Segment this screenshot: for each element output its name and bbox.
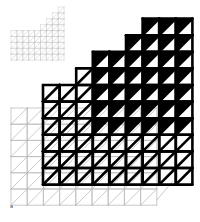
corner-label: a bbox=[10, 203, 13, 209]
lattice-diagram bbox=[0, 0, 200, 222]
small-faint-grid bbox=[11, 7, 64, 60]
thick-grid bbox=[43, 19, 192, 185]
